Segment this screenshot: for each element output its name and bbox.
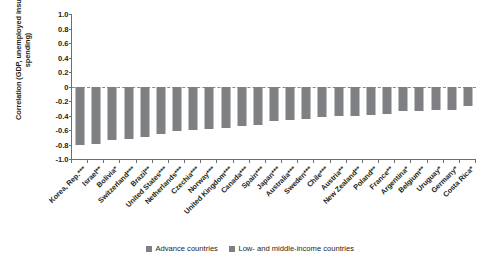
- bar[interactable]: [463, 87, 472, 107]
- bar[interactable]: [253, 87, 262, 125]
- y-axis-tick-label: -0.6: [35, 126, 73, 135]
- x-axis-tick-mark: [200, 159, 201, 163]
- bar-slot: [428, 14, 444, 159]
- bar[interactable]: [366, 87, 375, 115]
- legend-item[interactable]: Low- and middle-income countries: [229, 244, 354, 253]
- x-axis-tick-mark: [233, 159, 234, 163]
- bar-slot: [444, 14, 460, 159]
- bar-slot: [234, 14, 250, 159]
- legend-swatch-icon: [229, 246, 235, 252]
- bar-slot: [104, 14, 120, 159]
- x-axis-tick-mark: [152, 159, 153, 163]
- x-axis-tick-mark: [136, 159, 137, 163]
- x-axis-tick-mark: [168, 159, 169, 163]
- bar-slot: [201, 14, 217, 159]
- x-axis-tick-mark: [297, 159, 298, 163]
- bar[interactable]: [108, 87, 117, 141]
- y-axis-tick-label: -0.8: [35, 140, 73, 149]
- bar-slot: [266, 14, 282, 159]
- bar-slot: [217, 14, 233, 159]
- legend-label: Low- and middle-income countries: [238, 244, 354, 253]
- bar[interactable]: [383, 87, 392, 115]
- y-axis-tick-label: -1.0: [35, 155, 73, 164]
- y-axis-tick-label: 0.4: [35, 53, 73, 62]
- bar-slot: [169, 14, 185, 159]
- bar-slot: [282, 14, 298, 159]
- bar[interactable]: [334, 87, 343, 117]
- bar-slot: [460, 14, 476, 159]
- bar-slot: [379, 14, 395, 159]
- x-axis-tick-mark: [249, 159, 250, 163]
- bar[interactable]: [221, 87, 230, 128]
- bar[interactable]: [447, 87, 456, 111]
- bar[interactable]: [189, 87, 198, 131]
- y-axis-tick-label: -0.4: [35, 111, 73, 120]
- x-axis-tick-mark: [119, 159, 120, 163]
- y-axis-tick-label: 1.0: [35, 10, 73, 19]
- x-axis-label: Korea, Rep.***: [48, 165, 88, 205]
- bar-slot: [250, 14, 266, 159]
- bar-slot: [347, 14, 363, 159]
- bar[interactable]: [302, 87, 311, 120]
- bar-slot: [88, 14, 104, 159]
- plot-area: 1.00.80.60.40.20-0.2-0.4-0.6-0.8-1.0: [71, 14, 475, 159]
- bar[interactable]: [431, 87, 440, 111]
- bar-chart: Correlation (GDP, unemployed insurance s…: [0, 0, 500, 266]
- bar-slot: [153, 14, 169, 159]
- x-axis-tick-mark: [378, 159, 379, 163]
- bar[interactable]: [286, 87, 295, 120]
- bar-slot: [120, 14, 136, 159]
- y-axis-tick-label: 0.8: [35, 24, 73, 33]
- legend-label: Advance countries: [155, 244, 217, 253]
- bar[interactable]: [415, 87, 424, 112]
- x-axis-tick-mark: [87, 159, 88, 163]
- y-axis-tick-label: 0: [35, 82, 73, 91]
- bar-slot: [298, 14, 314, 159]
- x-axis-tick-mark: [103, 159, 104, 163]
- bar[interactable]: [399, 87, 408, 112]
- x-axis-tick-mark: [410, 159, 411, 163]
- legend-item[interactable]: Advance countries: [146, 244, 218, 253]
- x-axis-tick-mark: [362, 159, 363, 163]
- bar[interactable]: [76, 87, 85, 145]
- bar[interactable]: [350, 87, 359, 117]
- y-axis-tick-label: 0.6: [35, 39, 73, 48]
- bar[interactable]: [156, 87, 165, 134]
- x-axis-tick-mark: [475, 159, 476, 163]
- x-axis-line: [71, 159, 475, 160]
- x-axis-tick-mark: [281, 159, 282, 163]
- x-axis-tick-mark: [394, 159, 395, 163]
- x-axis-tick-mark: [216, 159, 217, 163]
- x-axis-tick-mark: [346, 159, 347, 163]
- bar[interactable]: [124, 87, 133, 140]
- bar[interactable]: [173, 87, 182, 131]
- bar[interactable]: [92, 87, 101, 144]
- x-axis-tick-mark: [313, 159, 314, 163]
- x-axis-tick-mark: [265, 159, 266, 163]
- x-axis-tick-mark: [459, 159, 460, 163]
- x-axis-tick-mark: [427, 159, 428, 163]
- bar[interactable]: [237, 87, 246, 127]
- bar-slot: [72, 14, 88, 159]
- bar-slot: [137, 14, 153, 159]
- bar-slot: [363, 14, 379, 159]
- x-axis-tick-mark: [330, 159, 331, 163]
- bar-series: [72, 14, 476, 159]
- x-axis-tick-mark: [184, 159, 185, 163]
- y-axis-tick-label: 0.2: [35, 68, 73, 77]
- x-axis-tick-mark: [443, 159, 444, 163]
- x-axis-tick-mark: [71, 159, 72, 163]
- bar-slot: [314, 14, 330, 159]
- bar-slot: [411, 14, 427, 159]
- legend-swatch-icon: [146, 246, 152, 252]
- bar[interactable]: [140, 87, 149, 137]
- bar[interactable]: [318, 87, 327, 117]
- bar-slot: [185, 14, 201, 159]
- bar-slot: [331, 14, 347, 159]
- chart-legend: Advance countriesLow- and middle-income …: [0, 244, 500, 253]
- bar[interactable]: [205, 87, 214, 130]
- bar-slot: [395, 14, 411, 159]
- bar[interactable]: [269, 87, 278, 121]
- y-axis-tick-label: -0.2: [35, 97, 73, 106]
